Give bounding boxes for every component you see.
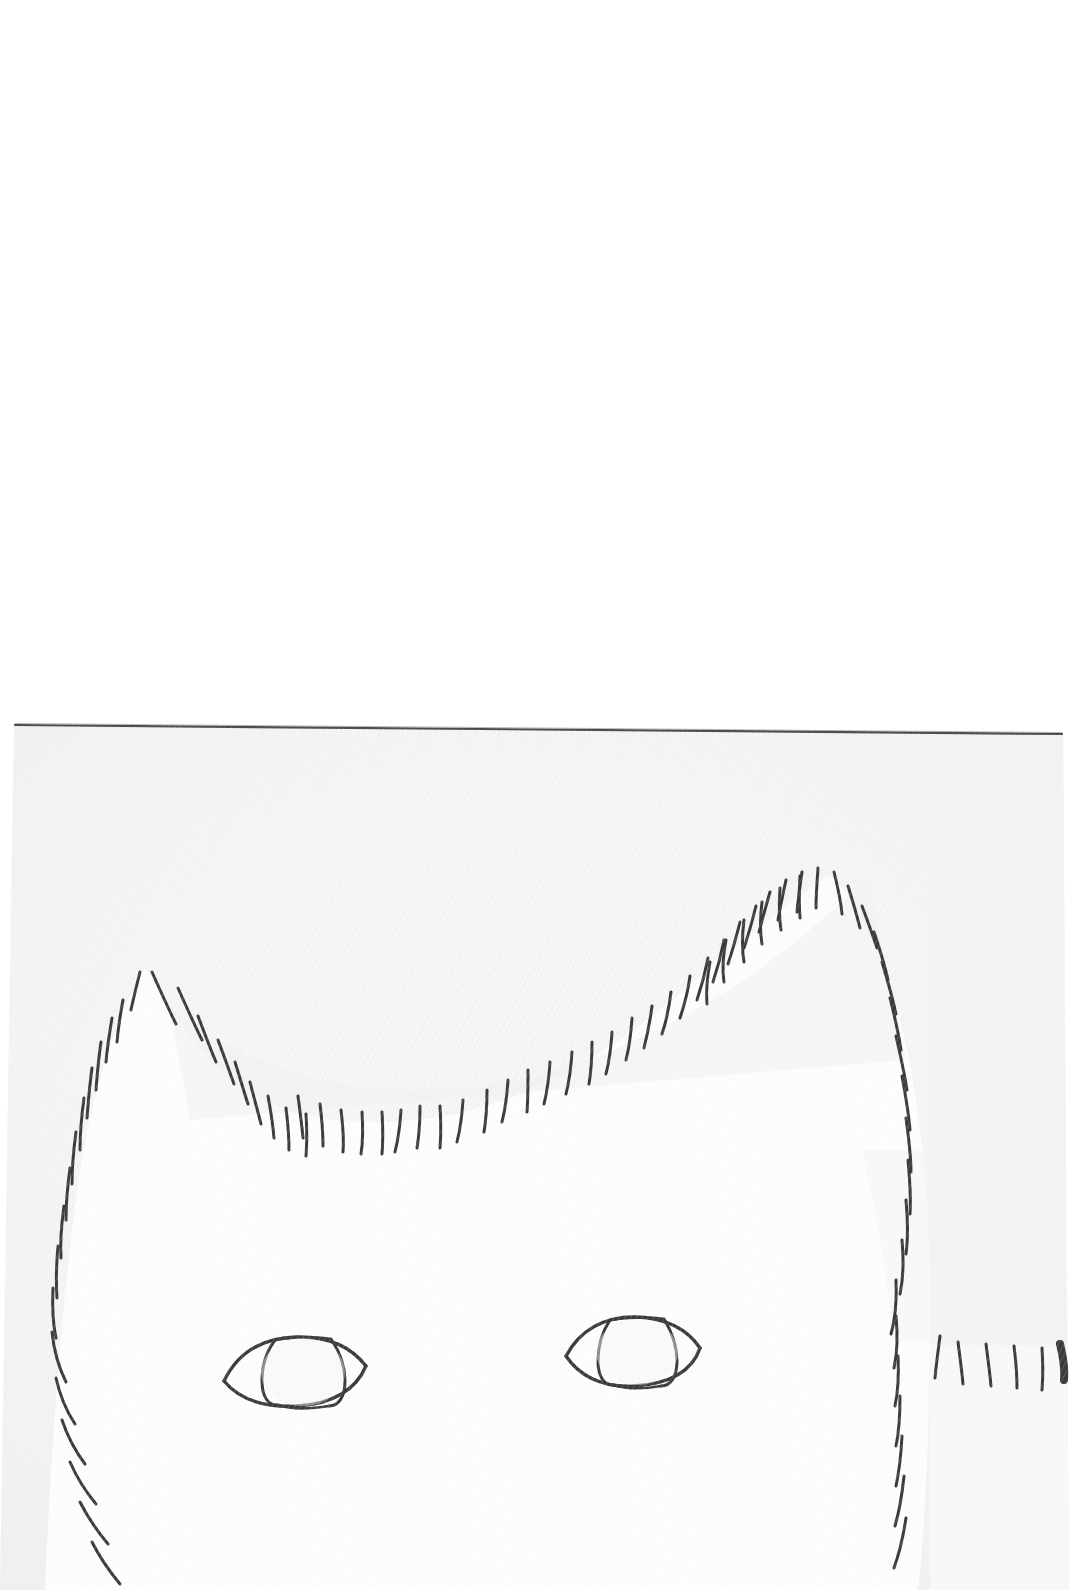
drawing-canvas	[0, 0, 1069, 1590]
artboard	[0, 0, 1069, 1590]
scanned-drawing-scene: Hand-drawn cat head sketch cat ink pen o…	[0, 0, 1069, 1590]
paper-grain-overlay	[0, 725, 1069, 1590]
